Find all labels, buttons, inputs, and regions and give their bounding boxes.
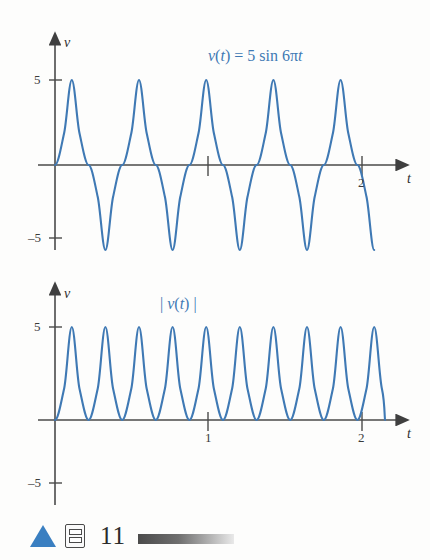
triangle-marker-icon: [30, 525, 56, 547]
figure-canvas: [0, 0, 430, 560]
caption-gradient-bar: [138, 534, 234, 544]
signal-y-axis-name: v: [64, 36, 70, 50]
doc-icon-bar-top: [69, 529, 82, 535]
figure-doc-icon: [65, 524, 85, 548]
rectified-ytick-label-neg5: –5: [28, 476, 41, 489]
rectified-y-axis-name: v: [64, 287, 70, 301]
eq-t2: t: [298, 47, 302, 64]
rectified-xtick-label-2: 2: [358, 431, 365, 444]
eq-rhs: = 5 sin 6: [234, 47, 290, 64]
figure-caption-bar: 11: [30, 518, 410, 554]
eq-close: ): [225, 47, 230, 64]
figure-page: v t 5 –5 2 v(t) = 5 sin 6πt v t 5 –5 1 2…: [0, 0, 430, 560]
abs-bar-left: |: [160, 295, 163, 312]
rectified-label: | v(t) |: [160, 296, 197, 312]
abs-bar-right: |: [193, 295, 196, 312]
chart-rectified-axes: [38, 294, 397, 505]
abs-close: ): [184, 295, 189, 312]
signal-x-axis-name: t: [407, 172, 411, 186]
signal-ytick-label-neg5: –5: [28, 231, 41, 244]
rectified-x-axis-name: t: [407, 427, 411, 441]
rectified-curve: [55, 327, 385, 420]
figure-number: 11: [100, 522, 126, 550]
eq-pi: π: [290, 47, 298, 64]
rectified-xtick-label-1: 1: [205, 431, 212, 444]
doc-icon-bar-bottom: [69, 537, 82, 543]
signal-ytick-label-5: 5: [34, 73, 41, 86]
signal-xtick-label-2: 2: [358, 176, 365, 189]
rectified-ytick-label-5: 5: [34, 320, 41, 333]
signal-equation-label: v(t) = 5 sin 6πt: [208, 48, 302, 64]
